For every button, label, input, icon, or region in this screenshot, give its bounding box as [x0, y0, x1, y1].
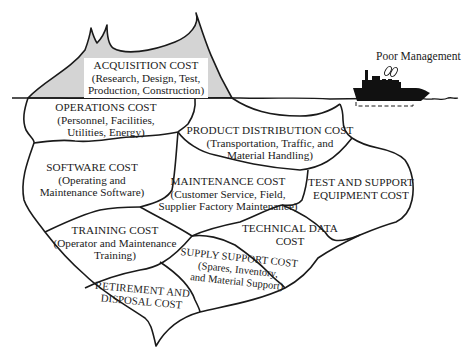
label-maintenance-cost: MAINTENANCE COST (Customer Service, Fiel…: [158, 175, 298, 213]
label-technical-data-cost: TECHNICAL DATA COST: [240, 222, 340, 247]
boundary-product-distribution-top: [232, 98, 340, 116]
label-test-support-equipment-cost: TEST AND SUPPORT EQUIPMENT COST: [306, 176, 416, 201]
label-training-cost: TRAINING COST (Operator and Maintenance …: [50, 224, 180, 262]
iceberg-diagram: ACQUISITION COST (Research, Design, Test…: [0, 0, 470, 361]
label-operations-cost: OPERATIONS COST (Personnel, Facilities, …: [46, 101, 166, 139]
label-software-cost: SOFTWARE COST (Operating and Maintenance…: [32, 161, 152, 199]
ship-icon: [353, 65, 430, 106]
label-product-distribution-cost: PRODUCT DISTRIBUTION COST (Transportatio…: [186, 124, 354, 162]
label-poor-management: Poor Management: [376, 50, 461, 62]
label-acquisition-cost: ACQUISITION COST (Research, Design, Test…: [84, 58, 208, 98]
